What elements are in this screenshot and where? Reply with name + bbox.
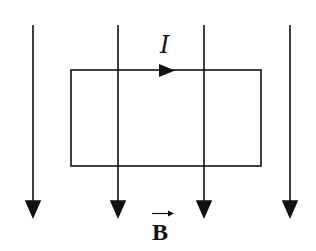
field-line-3 <box>197 25 211 217</box>
current-loop <box>71 70 261 166</box>
field-line-1 <box>26 25 40 217</box>
field-label: B <box>152 211 174 246</box>
arrowhead-down-icon <box>111 201 125 217</box>
diagram-canvas: I B <box>0 0 316 251</box>
current-label: I <box>159 31 170 59</box>
field-line-2 <box>111 25 125 217</box>
field-label-text: B <box>152 219 168 245</box>
vector-arrowhead-icon <box>168 211 174 217</box>
arrowhead-down-icon <box>26 201 40 217</box>
field-line-4 <box>283 25 297 217</box>
arrowhead-down-icon <box>283 201 297 217</box>
arrowhead-down-icon <box>197 201 211 217</box>
current-direction-arrow-icon <box>159 64 175 77</box>
